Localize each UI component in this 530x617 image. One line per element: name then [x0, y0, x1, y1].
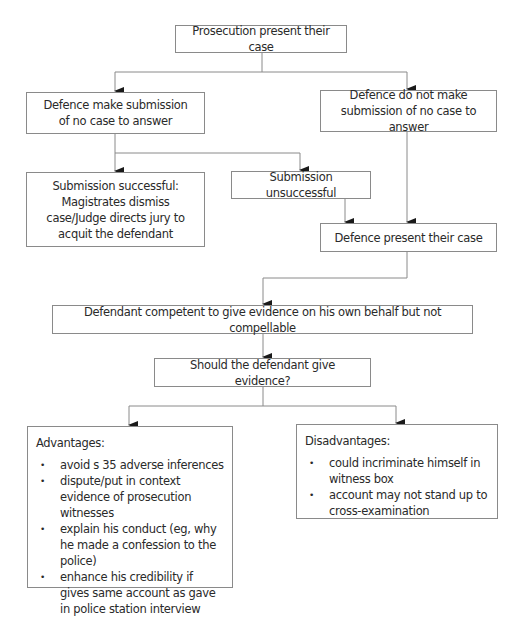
disadvantages-list: could incriminate himself in witness box… — [305, 455, 489, 519]
node-disadvantages: Disadvantages: could incriminate himself… — [296, 424, 498, 519]
node-question: Should the defendant give evidence? — [154, 358, 371, 387]
node-prosecution: Prosecution present their case — [175, 25, 347, 53]
list-item: account may not stand up to cross-examin… — [305, 487, 489, 519]
node-label: Defence present their case — [335, 230, 483, 246]
advantages-list: avoid s 35 adverse inferences dispute/pu… — [36, 457, 224, 617]
list-item: explain his conduct (eg, why he made a c… — [36, 521, 224, 569]
disadvantages-heading: Disadvantages: — [305, 433, 390, 449]
node-submission-successful: Submission successful: Magistrates dismi… — [26, 172, 205, 247]
list-item: avoid s 35 adverse inferences — [36, 457, 224, 473]
node-submission-made: Defence make submission of no case to an… — [26, 92, 205, 134]
node-label: Submission unsuccessful — [238, 169, 364, 201]
node-label: Defence make submission of no case to an… — [39, 97, 192, 129]
node-advantages: Advantages: avoid s 35 adverse inference… — [27, 426, 233, 588]
node-submission-unsuccessful: Submission unsuccessful — [231, 171, 371, 199]
node-submission-not-made: Defence do not make submission of no cas… — [320, 90, 497, 132]
node-label: Submission successful: Magistrates dismi… — [35, 178, 196, 242]
node-competent: Defendant competent to give evidence on … — [52, 305, 473, 334]
node-label: Defendant competent to give evidence on … — [59, 304, 466, 336]
list-item: could incriminate himself in witness box — [305, 455, 489, 487]
advantages-heading: Advantages: — [36, 435, 105, 451]
node-label: Defence do not make submission of no cas… — [327, 87, 490, 135]
node-label: Should the defendant give evidence? — [161, 357, 364, 389]
node-defence-case: Defence present their case — [320, 223, 497, 252]
node-label: Prosecution present their case — [182, 23, 340, 55]
list-item: dispute/put in context evidence of prose… — [36, 473, 224, 521]
list-item: enhance his credibility if gives same ac… — [36, 569, 224, 617]
